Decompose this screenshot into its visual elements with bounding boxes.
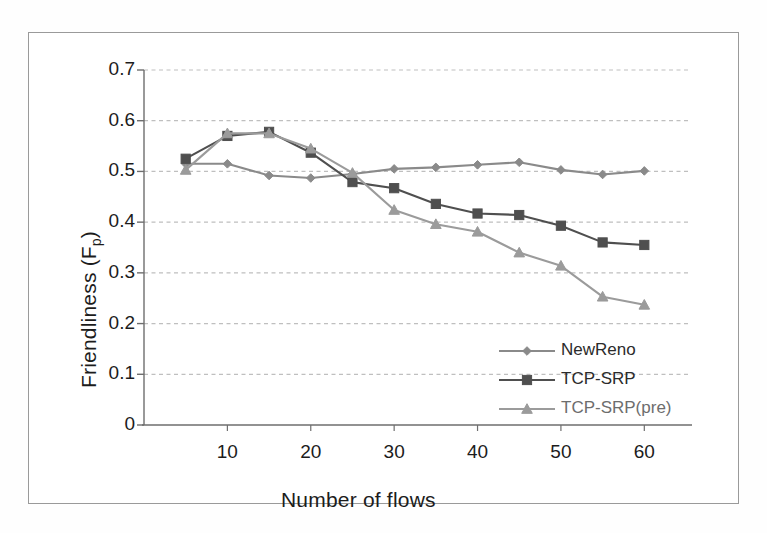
data-marker [390,165,399,174]
series-tcp-srp-pre- [180,128,649,309]
data-marker [473,209,482,218]
series-group [180,127,649,309]
y-tick-label: 0 [69,413,135,435]
data-marker [514,247,525,257]
chart-frame: 00.10.20.30.40.50.60.7 102030405060 NewR… [28,32,739,504]
series-tcp-srp [181,127,649,249]
data-marker [522,375,531,384]
data-marker [223,160,232,169]
y-tick-label: 0.5 [69,159,135,181]
data-marker [432,163,441,172]
data-marker [306,174,315,183]
chart-plot [29,33,738,503]
y-tick-label: 0.7 [69,58,135,80]
legend-item-newreno[interactable]: NewReno [561,340,636,360]
y-axis-title-main: Friendliness (F [77,246,100,388]
series-line [186,133,645,304]
data-marker [598,238,607,247]
series-newreno [181,158,648,182]
y-axis-title-subscript: p [88,238,104,246]
data-marker [556,221,565,230]
legend-marks-group [499,347,555,414]
data-marker [347,168,358,178]
data-marker [523,347,532,356]
data-marker [557,166,566,175]
data-marker [473,161,482,170]
data-marker [265,171,274,180]
x-tick-label: 20 [281,441,341,463]
data-marker [181,154,190,163]
x-tick-label: 50 [531,441,591,463]
x-tick-label: 30 [364,441,424,463]
y-axis-title-close: ) [77,231,100,238]
y-tick-label: 0.6 [69,109,135,131]
data-marker [515,210,524,219]
x-axis-title: Number of flows [281,488,436,512]
series-line [186,162,645,178]
y-tick-label: 0.4 [69,210,135,232]
x-tick-label: 40 [448,441,508,463]
data-marker [348,177,357,186]
data-marker [640,240,649,249]
figure-root: 00.10.20.30.40.50.60.7 102030405060 NewR… [0,0,767,533]
x-tick-label: 10 [197,441,257,463]
data-marker [431,199,440,208]
data-marker [515,158,524,167]
legend-item-tcp-srp-pre-[interactable]: TCP-SRP(pre) [561,398,672,418]
gridlines-group [144,70,690,374]
series-line [186,132,645,245]
y-axis-title: Friendliness (Fp) [77,231,104,388]
x-tick-label: 60 [614,441,674,463]
data-marker [390,184,399,193]
data-marker [640,167,649,176]
data-marker [598,170,607,179]
legend-item-tcp-srp[interactable]: TCP-SRP [561,369,636,389]
